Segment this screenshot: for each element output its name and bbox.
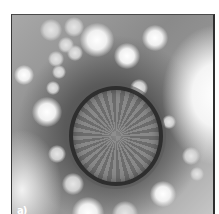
vesicle: [40, 19, 62, 41]
vesicle: [52, 65, 66, 79]
vesicle: [150, 181, 176, 207]
viral-particle: [69, 86, 163, 186]
vesicle: [48, 145, 66, 163]
micrograph-frame: a): [11, 14, 215, 214]
vesicle: [14, 65, 34, 85]
vesicle: [80, 23, 114, 57]
vesicle: [112, 201, 138, 214]
vesicle: [32, 97, 62, 127]
particle-core: [101, 121, 131, 151]
vesicle: [114, 43, 140, 69]
vesicle: [62, 173, 84, 195]
vesicle: [46, 81, 60, 95]
vesicle: [162, 115, 176, 129]
vesicle: [190, 167, 204, 181]
vesicle: [64, 17, 84, 37]
panel-label: a): [17, 205, 26, 214]
vesicle: [67, 45, 83, 61]
vesicle: [142, 25, 168, 51]
vesicle: [182, 147, 200, 165]
vesicle: [72, 197, 104, 214]
